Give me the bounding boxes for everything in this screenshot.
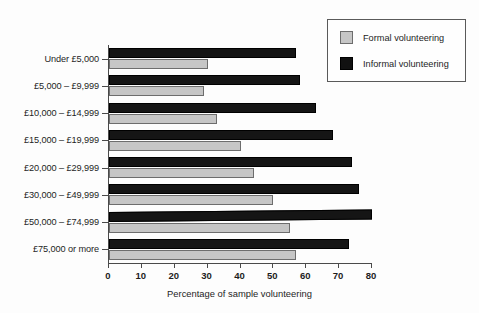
bar-formal-volunteering [109,86,204,96]
bar-formal-volunteering [109,114,217,124]
bar-formal-volunteering [109,250,296,260]
legend-label-formal: Formal volunteering [363,33,444,43]
informal-swatch-icon [340,57,353,70]
x-axis-tick [338,263,339,268]
y-axis-tick [102,113,108,114]
bar-informal-volunteering [109,184,359,194]
x-axis-tick-label: 60 [300,270,311,281]
bar-informal-volunteering [109,75,300,85]
bar-formal-volunteering [109,223,290,233]
y-axis-tick [102,195,108,196]
x-axis-tick [108,263,109,268]
x-axis-tick-label: 80 [366,270,377,281]
x-axis-tick-label: 70 [333,270,344,281]
x-axis-tick [207,263,208,268]
formal-swatch-icon [340,31,353,44]
y-axis-tick [102,140,108,141]
y-axis-tick [102,222,108,223]
legend-label-informal: Informal volunteering [363,59,449,69]
x-axis-tick [141,263,142,268]
x-axis-tick-label: 10 [136,270,147,281]
x-axis-tick-label: 40 [234,270,245,281]
bar-formal-volunteering [109,59,208,69]
x-axis-title: Percentage of sample volunteering [0,288,479,299]
bar-informal-volunteering [109,157,352,167]
y-axis-tick [102,59,108,60]
y-axis-category-label: £30,000 – £49,999 [24,190,99,200]
bar-informal-volunteering [109,103,316,113]
y-axis-tick [102,86,108,87]
y-axis-category-label: £50,000 – £74,999 [24,217,99,227]
y-axis-category-label: Under £5,000 [45,54,99,64]
x-axis-tick-label: 30 [201,270,212,281]
y-axis-category-label: £15,000 – £19,999 [24,135,99,145]
y-axis-tick [102,168,108,169]
bar-informal-volunteering [109,209,372,222]
bar-informal-volunteering [109,130,333,140]
y-axis-tick [102,249,108,250]
bar-formal-volunteering [109,168,254,178]
y-axis-category-label: £20,000 – £29,999 [24,163,99,173]
x-axis-tick [305,263,306,268]
bar-formal-volunteering [109,195,273,205]
chart-legend: Formal volunteering Informal volunteerin… [327,19,466,82]
bar-chart: Under £5,000£5,000 – £9,999£10,000 – £14… [0,0,479,313]
bar-formal-volunteering [109,141,241,151]
x-axis-tick [272,263,273,268]
x-axis-tick [240,263,241,268]
y-axis-category-label: £5,000 – £9,999 [34,81,99,91]
x-axis-tick-label: 50 [267,270,278,281]
bar-informal-volunteering [109,239,349,249]
x-axis-tick-label: 20 [168,270,179,281]
bar-informal-volunteering [109,48,296,58]
legend-item-informal: Informal volunteering [340,57,449,70]
legend-item-formal: Formal volunteering [340,31,444,44]
y-axis-category-label: £10,000 – £14,999 [24,108,99,118]
x-axis-tick-label: 0 [105,270,110,281]
x-axis-tick [174,263,175,268]
x-axis-tick [371,263,372,268]
y-axis-category-label: £75,000 or more [33,244,99,254]
